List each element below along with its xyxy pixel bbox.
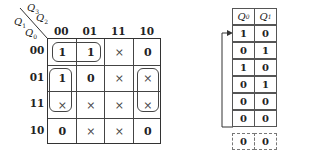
table-row-dashed: 0 0 [233,134,277,151]
kmap-group-loop-top [52,42,101,62]
table-cell: 0 [254,93,277,110]
table-cell: 0 [232,93,255,110]
kmap-row-label: 01 [28,71,46,83]
table-cell: 0 [254,110,277,127]
table-cell: 1 [232,25,255,42]
kmap-cell: × [105,119,134,146]
kmap-cell: × [77,119,106,146]
kmap-col-label: 10 [133,25,162,37]
table-cell: 0 [254,59,277,76]
kmap-cell: × [77,92,106,119]
kmap-var-q2: Q2 [36,12,48,25]
kmap-col-label: 00 [47,25,76,37]
table-cell: 0 [254,133,277,150]
table-row: 0 1 [233,43,277,60]
kmap-cell: 0 [48,119,77,146]
kmap-col-label: 01 [76,25,105,37]
table-row: 1 0 [233,60,277,77]
table-row: 0 1 [233,77,277,94]
kmap-col-label: 11 [104,25,133,37]
karnaugh-map: 1 1 × 0 1 0 × × × × × × 0 × × 0 [47,38,161,144]
kmap-group-loop-right [137,68,159,112]
table-row: 0 0 [233,94,277,111]
table-row: 1 0 [233,26,277,43]
kmap-cell: × [105,39,134,66]
kmap-row-label: 11 [28,97,46,109]
kmap-row-label: 00 [28,44,46,56]
kmap-row-label: 10 [28,124,46,136]
table-cell: 0 [232,42,255,59]
table-cell: 0 [232,76,255,93]
table-cell: 0 [232,110,255,127]
kmap-group-loop-left [49,68,72,112]
kmap-cell: 0 [134,119,163,146]
table-header-q1: Q1 [254,8,277,25]
table-cell: 1 [232,59,255,76]
kmap-cell: 0 [77,66,106,93]
table-cell: 0 [232,133,255,150]
kmap-cell: 0 [134,39,163,66]
kmap-cell: × [105,66,134,93]
table-cell: 1 [254,42,277,59]
table-cell: 0 [254,25,277,42]
kmap-var-q0: Q0 [25,27,37,40]
table-row: 0 0 [233,111,277,128]
table-header-q0: Q0 [232,8,255,25]
state-table-header: Q0 Q1 [233,9,277,26]
table-cell: 1 [254,76,277,93]
kmap-cell: × [105,92,134,119]
